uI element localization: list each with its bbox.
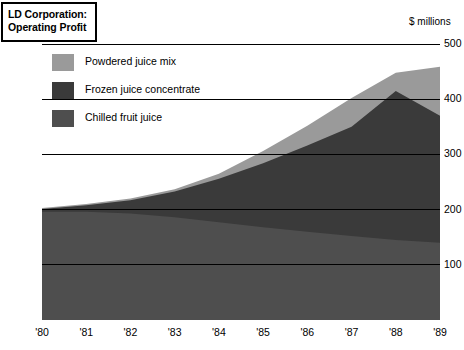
chart-title-line2: Operating Profit xyxy=(8,21,90,34)
y-tick-label-200: 200 xyxy=(444,203,462,215)
x-tick-label-1986: '86 xyxy=(300,326,314,338)
legend-label-powdered: Powdered juice mix xyxy=(85,55,176,67)
x-tick-label-1981: '81 xyxy=(79,326,93,338)
legend-label-frozen: Frozen juice concentrate xyxy=(85,83,200,95)
y-tick-label-100: 100 xyxy=(444,258,462,270)
legend-item-chilled: Chilled fruit juice xyxy=(52,106,352,134)
y-tick-label-300: 300 xyxy=(444,147,462,159)
x-tick-label-1989: '89 xyxy=(433,326,447,338)
y-tick-label-500: 500 xyxy=(444,37,462,49)
chart-title-line1: LD Corporation: xyxy=(8,8,90,21)
legend-swatch-chilled xyxy=(52,110,74,127)
x-tick-label-1983: '83 xyxy=(168,326,182,338)
x-tick-label-1985: '85 xyxy=(256,326,270,338)
legend-item-powdered: Powdered juice mix xyxy=(52,50,352,78)
chart-figure: LD Corporation: Operating Profit $ milli… xyxy=(0,0,464,350)
chart-legend: Powdered juice mix Frozen juice concentr… xyxy=(52,50,352,134)
chart-title-box: LD Corporation: Operating Profit xyxy=(1,2,97,42)
legend-swatch-powdered xyxy=(52,54,74,71)
x-tick-label-1984: '84 xyxy=(212,326,226,338)
legend-label-chilled: Chilled fruit juice xyxy=(85,111,162,123)
x-tick-label-1987: '87 xyxy=(345,326,359,338)
legend-swatch-frozen xyxy=(52,82,74,99)
x-tick-label-1982: '82 xyxy=(124,326,138,338)
x-tick-label-1988: '88 xyxy=(389,326,403,338)
units-label: $ millions xyxy=(409,16,451,27)
y-tick-label-400: 400 xyxy=(444,92,462,104)
legend-item-frozen: Frozen juice concentrate xyxy=(52,78,352,106)
x-tick-label-1980: '80 xyxy=(35,326,49,338)
